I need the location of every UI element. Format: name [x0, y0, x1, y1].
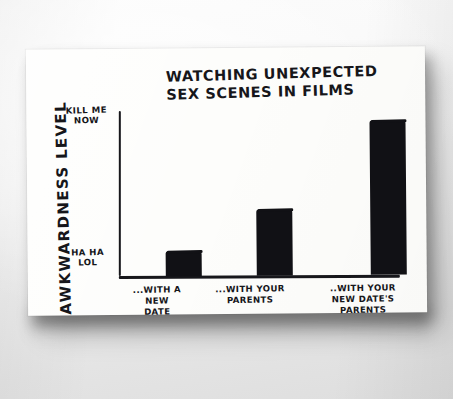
y-tick-bottom-line-2: LOL [56, 257, 120, 269]
y-tick-label-top: KILL ME NOW [54, 104, 119, 127]
chart-title: WATCHING UNEXPECTED SEX SCENES IN FILMS [166, 62, 397, 104]
y-tick-top-line-2: NOW [54, 115, 118, 127]
bar-with-your-new-dates-parents [369, 120, 406, 274]
bar-group [117, 110, 399, 276]
plot-area [117, 108, 403, 277]
y-axis-label: AWKWARDNESS LEVEL [53, 100, 75, 315]
paper-card: WATCHING UNEXPECTED SEX SCENES IN FILMS … [26, 46, 427, 315]
bar-slot-3 [369, 110, 406, 274]
x-label-with-a-new-date: ...WITH A NEW DATE [114, 284, 201, 319]
x-label-3-line-3: PARENTS [313, 304, 413, 317]
x-label-2-line-2: PARENTS [203, 294, 297, 307]
bar-with-your-parents [256, 210, 293, 276]
x-label-with-your-parents: ...WITH YOUR PARENTS [203, 283, 297, 307]
photograph-of-handdrawn-chart: WATCHING UNEXPECTED SEX SCENES IN FILMS … [0, 0, 453, 399]
x-label-2-line-1: ...WITH YOUR [203, 283, 297, 296]
bar-slot-1 [164, 112, 201, 276]
y-tick-label-bottom: HA HA LOL [55, 246, 119, 268]
x-label-1-line-3: DATE [114, 306, 200, 319]
bar-with-a-new-date [166, 252, 202, 277]
bar-slot-2 [255, 111, 292, 275]
x-label-with-your-new-dates-parents: ..WITH YOUR NEW DATE'S PARENTS [313, 282, 414, 317]
